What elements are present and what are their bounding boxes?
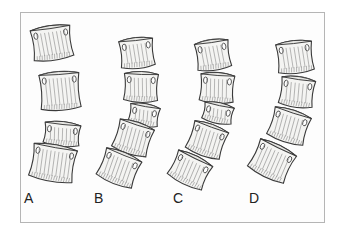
vertebra: [266, 104, 312, 147]
panel-a-spine: [28, 23, 81, 185]
vertebra: [123, 71, 158, 103]
panel-label-a: A: [24, 191, 33, 205]
vertebra: [118, 36, 155, 70]
panel-label-d: D: [249, 191, 259, 205]
vertebra: [28, 141, 78, 185]
panel-b-spine: [95, 36, 161, 191]
panel-label-c: C: [173, 191, 183, 205]
vertebra: [194, 37, 232, 72]
vertebra: [199, 71, 235, 104]
vertebra: [39, 70, 82, 112]
vertebra: [30, 23, 74, 63]
vertebra: [275, 39, 314, 76]
vertebra: [278, 74, 316, 109]
panel-label-b: B: [94, 191, 103, 205]
panel-d-spine: [246, 39, 316, 186]
panel-c-spine: [166, 37, 235, 192]
vertebrae-illustration: [0, 0, 339, 232]
